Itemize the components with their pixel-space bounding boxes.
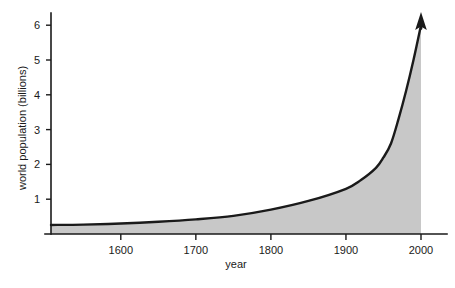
- y-tick-label-5: 5: [34, 54, 40, 66]
- x-tick-label-1700: 1700: [184, 244, 208, 256]
- y-axis-tick-labels: 123456: [34, 19, 40, 205]
- x-axis-ticks: [121, 234, 421, 240]
- y-axis-title: world population (billions): [16, 66, 28, 191]
- population-growth-chart: 123456 16001700180019002000 world popula…: [0, 0, 455, 288]
- x-tick-label-1800: 1800: [259, 244, 283, 256]
- x-tick-label-2000: 2000: [409, 244, 433, 256]
- y-tick-label-6: 6: [34, 19, 40, 31]
- y-tick-label-1: 1: [34, 193, 40, 205]
- chart-canvas: 123456 16001700180019002000 world popula…: [0, 0, 455, 288]
- population-area-fill: [51, 25, 421, 234]
- x-axis-tick-labels: 16001700180019002000: [109, 244, 434, 256]
- y-tick-label-4: 4: [34, 89, 40, 101]
- y-tick-label-2: 2: [34, 158, 40, 170]
- x-axis-title: year: [225, 258, 247, 270]
- x-tick-label-1900: 1900: [334, 244, 358, 256]
- y-tick-label-3: 3: [34, 124, 40, 136]
- x-tick-label-1600: 1600: [109, 244, 133, 256]
